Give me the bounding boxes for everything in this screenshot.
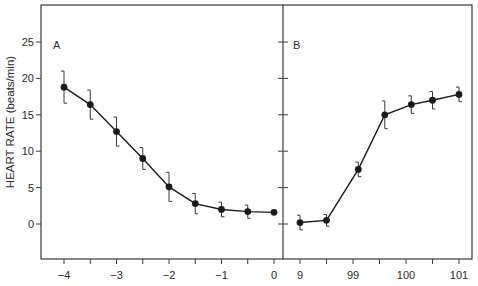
data-point: [166, 183, 173, 190]
data-point: [139, 155, 146, 162]
data-point: [429, 97, 436, 104]
x-tick-label: −3: [110, 269, 123, 281]
plot-frame: [41, 5, 472, 259]
data-point: [244, 208, 251, 215]
y-axis: 0510152025: [22, 36, 288, 230]
y-tick-label: 25: [22, 36, 34, 48]
data-point: [61, 84, 68, 91]
data-point: [113, 128, 120, 135]
y-tick-label: 0: [28, 218, 34, 230]
x-axis-panel-a: −4−3−2−10: [58, 259, 277, 281]
x-tick-label: 100: [397, 269, 415, 281]
data-point: [355, 166, 362, 173]
data-point: [408, 101, 415, 108]
plot-border: [41, 5, 472, 259]
panel-a-label: A: [53, 39, 61, 51]
series-panel-a: [61, 71, 278, 218]
data-point: [456, 91, 463, 98]
series-panel-b: [297, 87, 463, 230]
x-tick-label: 99: [347, 269, 359, 281]
y-tick-label: 15: [22, 109, 34, 121]
data-point: [323, 217, 330, 224]
data-point: [218, 206, 225, 213]
data-point: [87, 101, 94, 108]
x-tick-label: 9: [297, 269, 303, 281]
data-line: [300, 94, 459, 222]
y-tick-label: 5: [28, 182, 34, 194]
x-axis-panel-b: 999100101: [297, 259, 468, 281]
x-tick-label: −2: [163, 269, 176, 281]
y-tick-label: 20: [22, 72, 34, 84]
y-tick-label: 10: [22, 145, 34, 157]
data-point: [297, 219, 304, 226]
x-tick-label: −4: [58, 269, 71, 281]
y-axis-label: HEART RATE (beats/min): [4, 56, 16, 188]
x-tick-label: −1: [215, 269, 228, 281]
x-tick-label: 0: [271, 269, 277, 281]
heart-rate-chart: 0510152025 −4−3−2−10 999100101 HEART RAT…: [0, 0, 478, 286]
data-point: [192, 200, 199, 207]
panel-b-label: B: [293, 39, 300, 51]
data-point: [271, 209, 278, 216]
data-point: [381, 111, 388, 118]
x-tick-label: 101: [450, 269, 468, 281]
